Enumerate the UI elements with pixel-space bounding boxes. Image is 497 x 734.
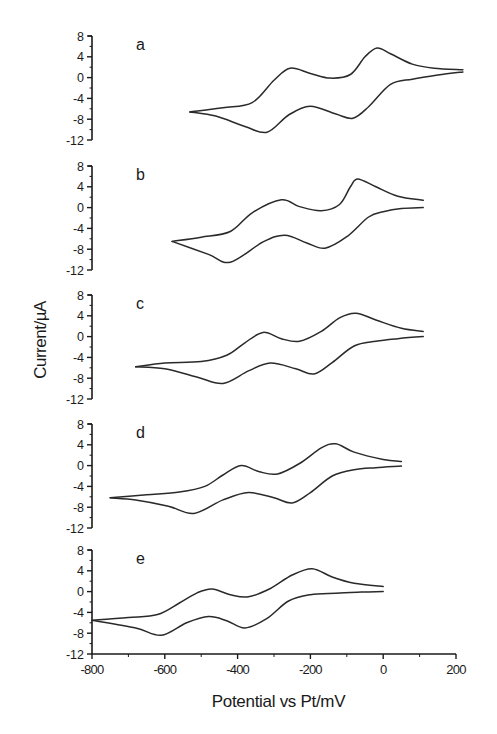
y-tick-label: -12 <box>66 393 84 407</box>
x-tick-label: -200 <box>299 662 322 677</box>
y-tick-label: -4 <box>73 480 84 494</box>
x-tick-label: -400 <box>226 662 249 677</box>
y-tick-label: -8 <box>73 113 84 127</box>
y-tick-label: -8 <box>73 243 84 257</box>
panel-label: d <box>136 424 145 441</box>
x-tick-label: 0 <box>380 662 387 677</box>
y-tick-label: -12 <box>66 134 84 148</box>
panel-b: 840-4-8-12b <box>66 160 423 278</box>
cv-forward-curve <box>190 48 463 112</box>
y-tick-label: 8 <box>77 418 84 432</box>
y-tick-label: -4 <box>73 351 84 365</box>
cv-reverse-curve <box>190 72 463 133</box>
y-tick-label: 4 <box>77 309 84 323</box>
y-tick-label: 8 <box>77 544 84 558</box>
y-tick-label: -8 <box>73 627 84 641</box>
x-axis-label: Potential vs Pt/mV <box>0 692 497 712</box>
cyclic-voltammogram-figure: 840-4-8-12a840-4-8-12b840-4-8-12c840-4-8… <box>0 0 497 734</box>
panel-label: e <box>136 550 145 567</box>
y-tick-label: 0 <box>77 71 84 85</box>
y-tick-label: 0 <box>77 585 84 599</box>
x-tick-label: 200 <box>446 662 466 677</box>
y-tick-label: 4 <box>77 438 84 452</box>
y-tick-label: 8 <box>77 289 84 303</box>
panel-d: 840-4-8-12d <box>66 418 401 536</box>
y-axis-label: Current/µA <box>31 285 51 395</box>
cv-forward-curve <box>92 569 383 621</box>
y-tick-label: 4 <box>77 564 84 578</box>
cv-reverse-curve <box>172 208 423 263</box>
y-tick-label: -12 <box>66 264 84 278</box>
cv-forward-curve <box>172 179 423 241</box>
y-tick-label: -4 <box>73 92 84 106</box>
x-axis: -800-600-400-2000200 <box>81 654 467 677</box>
cv-reverse-curve <box>110 466 401 513</box>
panel-label: a <box>136 36 145 53</box>
y-tick-label: 8 <box>77 160 84 174</box>
y-tick-label: 0 <box>77 459 84 473</box>
x-tick-label: -800 <box>81 662 104 677</box>
y-tick-label: -12 <box>66 648 84 662</box>
y-tick-label: -12 <box>66 522 84 536</box>
y-tick-label: 0 <box>77 330 84 344</box>
panel-a: 840-4-8-12a <box>66 30 463 148</box>
cv-reverse-curve <box>92 592 383 636</box>
panel-label: c <box>136 295 144 312</box>
y-tick-label: -8 <box>73 501 84 515</box>
y-tick-label: 4 <box>77 50 84 64</box>
cv-forward-curve <box>110 444 401 498</box>
y-tick-label: -4 <box>73 222 84 236</box>
panel-e: 840-4-8-12e <box>66 544 383 662</box>
panel-label: b <box>136 166 145 183</box>
cv-reverse-curve <box>136 337 424 384</box>
y-tick-label: 0 <box>77 201 84 215</box>
y-tick-label: -8 <box>73 372 84 386</box>
y-tick-label: 4 <box>77 180 84 194</box>
y-tick-label: -4 <box>73 606 84 620</box>
panel-c: 840-4-8-12c <box>66 289 423 407</box>
y-tick-label: 8 <box>77 30 84 44</box>
x-tick-label: -600 <box>153 662 176 677</box>
